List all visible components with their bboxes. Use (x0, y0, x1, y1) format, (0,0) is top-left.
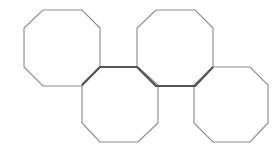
octagon-2 (82, 67, 158, 142)
octagon-4 (194, 67, 268, 142)
octagon-1 (24, 10, 100, 86)
highlighted-shared-edges (82, 67, 213, 86)
octagon-3 (137, 10, 213, 86)
octagon-diagram (0, 0, 278, 154)
